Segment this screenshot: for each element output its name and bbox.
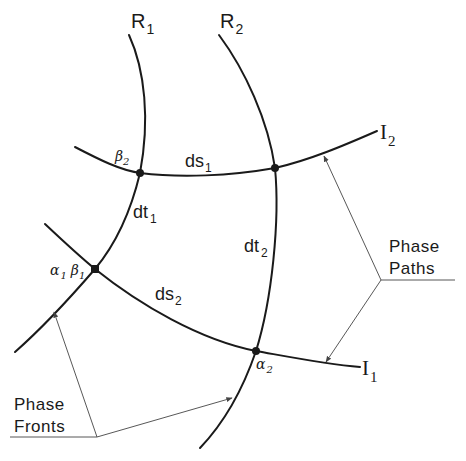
label-ds2: ds2 bbox=[155, 284, 182, 308]
phase-fronts-arrow-right bbox=[97, 398, 232, 437]
phase-paths-arrow-upper bbox=[324, 156, 381, 280]
label-I2: I2 bbox=[380, 120, 396, 149]
label-I1: I1 bbox=[362, 356, 378, 385]
node-R2-I2 bbox=[271, 164, 279, 172]
phase-paths-arrow-lower bbox=[326, 280, 381, 362]
label-R2: R2 bbox=[220, 10, 243, 37]
label-ds1: ds1 bbox=[185, 151, 212, 175]
label-dt1: dt1 bbox=[133, 202, 157, 226]
label-dt2: dt2 bbox=[244, 236, 268, 260]
phase-diagram: R1 R2 I2 I1 β2 α1β1 α2 ds1 dt1 ds2 dt2 P… bbox=[0, 0, 466, 461]
label-phase-paths-line1: Phase bbox=[389, 237, 440, 256]
node-alpha2 bbox=[252, 347, 260, 355]
label-phase-paths-line2: Paths bbox=[389, 259, 435, 278]
curve-R1 bbox=[15, 35, 145, 352]
node-beta2 bbox=[136, 169, 144, 177]
node-alpha1-beta1 bbox=[91, 265, 99, 273]
label-phase-fronts-line1: Phase bbox=[14, 395, 65, 414]
curve-I1 bbox=[45, 224, 360, 367]
label-R1: R1 bbox=[131, 10, 154, 37]
label-alpha2: α2 bbox=[256, 356, 273, 375]
label-phase-fronts-line2: Fronts bbox=[14, 417, 65, 436]
label-alpha1-beta1: α1β1 bbox=[50, 262, 85, 281]
curve-R2 bbox=[200, 35, 276, 448]
label-beta2: β2 bbox=[114, 148, 129, 167]
